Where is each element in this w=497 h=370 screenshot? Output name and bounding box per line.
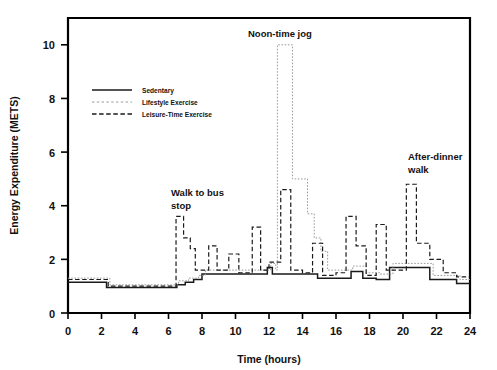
y-tick-label: 2 [49, 254, 55, 266]
annotation-walk-to-bus-stop: Walk to bus [171, 187, 224, 198]
series-line-sedentary [68, 267, 470, 287]
annotation-noon-time-jog: Noon-time jog [248, 28, 312, 39]
series-line-leisure-time-exercise [68, 184, 470, 286]
x-tick-label: 12 [263, 325, 275, 337]
legend-label-leisure-time-exercise: Leisure-Time Exercise [142, 111, 212, 118]
x-tick-label: 0 [65, 325, 71, 337]
x-tick-label: 22 [430, 325, 442, 337]
y-tick-label: 4 [49, 200, 56, 212]
x-tick-label: 14 [296, 325, 309, 337]
annotation-walk-to-bus-stop: stop [171, 200, 191, 211]
x-tick-label: 16 [330, 325, 342, 337]
annotation-after-dinner-walk: After-dinner [408, 151, 463, 162]
annotation-after-dinner-walk: walk [407, 164, 429, 175]
x-tick-label: 18 [363, 325, 375, 337]
legend-label-sedentary: Sedentary [142, 87, 174, 95]
x-tick-label: 24 [464, 325, 477, 337]
x-tick-label: 6 [165, 325, 171, 337]
x-tick-label: 20 [397, 325, 409, 337]
x-tick-label: 10 [229, 325, 241, 337]
x-tick-label: 2 [98, 325, 104, 337]
y-tick-label: 8 [49, 93, 55, 105]
y-axis-title: Energy Expenditure (METS) [8, 96, 20, 234]
chart-figure: 0246810121416182022240246810Time (hours)… [0, 0, 497, 370]
y-tick-label: 0 [49, 308, 55, 320]
x-tick-label: 4 [132, 325, 139, 337]
x-axis-title: Time (hours) [237, 353, 300, 365]
y-tick-label: 10 [43, 39, 55, 51]
legend-label-lifestyle-exercise: Lifestyle Exercise [142, 99, 198, 107]
y-tick-label: 6 [49, 147, 55, 159]
x-tick-label: 8 [199, 325, 205, 337]
energy-expenditure-chart: 0246810121416182022240246810Time (hours)… [0, 0, 497, 370]
